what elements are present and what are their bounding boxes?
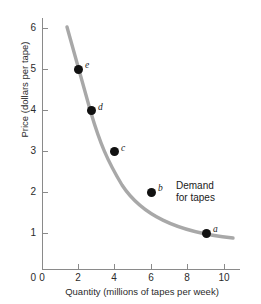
demand-curve-annotation: Demand for tapes	[176, 180, 215, 204]
demand-curve-figure: 6 5 4 3 2 1 0 0 2 4 6 8 10 Price (dollar…	[0, 0, 261, 304]
data-point-label-a: a	[213, 224, 218, 234]
demand-curve-line	[0, 0, 261, 304]
data-point-label-d: d	[98, 102, 103, 112]
data-point-e	[74, 65, 83, 74]
annotation-line-1: Demand	[176, 180, 215, 192]
data-point-label-e: e	[85, 60, 89, 70]
data-point-label-b: b	[158, 183, 163, 193]
data-point-d	[87, 106, 96, 115]
annotation-line-2: for tapes	[176, 192, 215, 204]
data-point-b	[147, 188, 156, 197]
data-point-label-c: c	[121, 143, 125, 153]
data-point-c	[110, 147, 119, 156]
data-point-a	[202, 229, 211, 238]
